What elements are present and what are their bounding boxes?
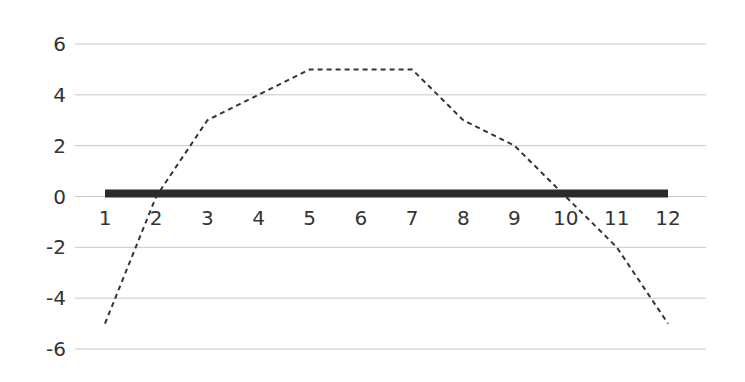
x-tick-label: 3 <box>201 206 214 230</box>
y-axis-ticks: 6420-2-4-6 <box>46 32 66 361</box>
y-tick-label: -6 <box>46 337 66 361</box>
x-tick-label: 12 <box>655 206 680 230</box>
series-lines <box>105 69 668 323</box>
y-tick-label: 2 <box>53 134 66 158</box>
y-tick-label: 4 <box>53 83 66 107</box>
x-tick-label: 10 <box>553 206 578 230</box>
y-tick-label: -2 <box>46 235 66 259</box>
x-tick-label: 1 <box>99 206 112 230</box>
line-chart: 6420-2-4-6 123456789101112 <box>0 0 745 382</box>
x-tick-label: 6 <box>355 206 368 230</box>
y-tick-label: -4 <box>46 286 66 310</box>
x-tick-label: 5 <box>303 206 316 230</box>
x-tick-label: 7 <box>406 206 419 230</box>
x-tick-label: 8 <box>457 206 470 230</box>
x-axis-ticks: 123456789101112 <box>99 206 681 230</box>
x-tick-label: 4 <box>252 206 265 230</box>
x-tick-label: 2 <box>150 206 163 230</box>
x-tick-label: 11 <box>604 206 629 230</box>
y-tick-label: 6 <box>53 32 66 56</box>
x-tick-label: 9 <box>508 206 521 230</box>
y-tick-label: 0 <box>53 185 66 209</box>
